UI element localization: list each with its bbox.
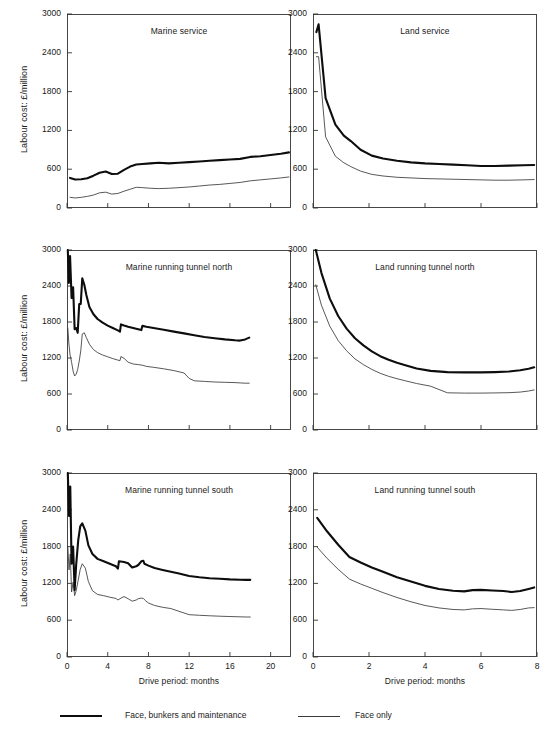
y-axis-tick-label: 0 xyxy=(273,651,307,661)
y-axis-tick-label: 600 xyxy=(27,163,61,173)
labour-cost-figure: 06001200180024003000Marine serviceLabour… xyxy=(0,0,545,729)
panel-title: Land running tunnel north xyxy=(313,262,537,272)
chart-panel: 06001200180024003000Land service xyxy=(313,14,537,208)
y-axis-tick-label: 1200 xyxy=(273,352,307,362)
y-axis-tick-label: 1800 xyxy=(27,86,61,96)
x-axis-tick-label: 4 xyxy=(88,661,128,671)
x-axis-tick-label: 0 xyxy=(293,661,333,671)
y-axis-tick-label: 3000 xyxy=(273,244,307,254)
chart-panel: 0600120018002400300002468Land running tu… xyxy=(313,473,537,657)
x-axis-tick-label: 8 xyxy=(128,661,168,671)
y-axis-label: Labour cost: £/million xyxy=(19,520,29,607)
panel-title: Marine service xyxy=(67,26,291,36)
plot-frame xyxy=(68,251,291,430)
y-axis-tick-label: 1200 xyxy=(27,352,61,362)
y-axis-tick-label: 2400 xyxy=(273,280,307,290)
y-axis-tick-label: 3000 xyxy=(27,467,61,477)
y-axis-tick-label: 1800 xyxy=(273,541,307,551)
y-axis-tick-label: 1800 xyxy=(273,316,307,326)
y-axis-tick-label: 1800 xyxy=(27,316,61,326)
panel-title: Land service xyxy=(313,26,537,36)
y-axis-tick-label: 1200 xyxy=(27,577,61,587)
y-axis-tick-label: 3000 xyxy=(273,8,307,18)
x-axis-tick-label: 12 xyxy=(169,661,209,671)
panel-title: Marine running tunnel north xyxy=(67,262,291,272)
plot-area xyxy=(313,473,537,657)
x-axis-tick-label: 6 xyxy=(461,661,501,671)
y-axis-tick-label: 0 xyxy=(27,202,61,212)
y-axis-tick-label: 1800 xyxy=(273,86,307,96)
y-axis-tick-label: 600 xyxy=(27,388,61,398)
y-axis-tick-label: 1800 xyxy=(27,541,61,551)
plot-area xyxy=(67,250,291,430)
series-line-face-bunkers-maintenance xyxy=(70,152,289,179)
x-axis-tick-label: 2 xyxy=(349,661,389,671)
y-axis-tick-label: 600 xyxy=(27,614,61,624)
y-axis-tick-label: 2400 xyxy=(273,504,307,514)
plot-frame xyxy=(314,251,537,430)
plot-area xyxy=(313,14,537,208)
legend-swatch-thin xyxy=(298,716,340,717)
x-axis-label: Drive period: months xyxy=(313,676,537,686)
x-axis-tick-label: 4 xyxy=(405,661,445,671)
y-axis-label: Labour cost: £/million xyxy=(19,66,29,153)
y-axis-tick-label: 2400 xyxy=(27,280,61,290)
y-axis-tick-label: 600 xyxy=(273,388,307,398)
y-axis-tick-label: 2400 xyxy=(27,47,61,57)
chart-panel: 06001200180024003000Marine service xyxy=(67,14,291,208)
x-axis-tick-label: 8 xyxy=(517,661,545,671)
plot-area xyxy=(67,473,291,657)
y-axis-tick-label: 1200 xyxy=(27,124,61,134)
y-axis-tick-label: 1200 xyxy=(273,124,307,134)
series-line-face-only xyxy=(316,57,534,181)
x-axis-tick-label: 20 xyxy=(251,661,291,671)
chart-panel: 06001200180024003000048121620Marine runn… xyxy=(67,473,291,657)
y-axis-tick-label: 2400 xyxy=(27,504,61,514)
y-axis-tick-label: 600 xyxy=(273,614,307,624)
panel-title: Marine running tunnel south xyxy=(67,485,291,495)
y-axis-tick-label: 0 xyxy=(273,424,307,434)
legend-swatch-thick xyxy=(60,715,102,717)
series-line-face-bunkers-maintenance xyxy=(316,24,534,166)
series-line-face-bunkers-maintenance xyxy=(317,518,534,592)
panel-title: Land running tunnel south xyxy=(313,485,537,495)
series-line-face-only xyxy=(316,285,534,393)
legend-label: Face, bunkers and maintenance xyxy=(125,710,246,720)
y-axis-label: Labour cost: £/million xyxy=(19,295,29,382)
y-axis-tick-label: 1200 xyxy=(273,577,307,587)
series-line-face-only xyxy=(68,328,249,383)
plot-frame xyxy=(68,15,291,208)
y-axis-tick-label: 0 xyxy=(27,424,61,434)
y-axis-tick-label: 3000 xyxy=(27,244,61,254)
y-axis-tick-label: 0 xyxy=(27,651,61,661)
legend-label: Face only xyxy=(355,710,392,720)
y-axis-tick-label: 3000 xyxy=(27,8,61,18)
chart-panel: 06001200180024003000Marine running tunne… xyxy=(67,250,291,430)
plot-area xyxy=(313,250,537,430)
series-line-face-only xyxy=(70,177,289,198)
plot-frame xyxy=(68,474,291,657)
y-axis-tick-label: 0 xyxy=(273,202,307,212)
x-axis-tick-label: 0 xyxy=(47,661,87,671)
plot-area xyxy=(67,14,291,208)
x-axis-tick-label: 16 xyxy=(210,661,250,671)
y-axis-tick-label: 3000 xyxy=(273,467,307,477)
y-axis-tick-label: 2400 xyxy=(273,47,307,57)
chart-panel: 06001200180024003000Land running tunnel … xyxy=(313,250,537,430)
y-axis-tick-label: 600 xyxy=(273,163,307,173)
plot-frame xyxy=(314,474,537,657)
x-axis-label: Drive period: months xyxy=(67,676,291,686)
